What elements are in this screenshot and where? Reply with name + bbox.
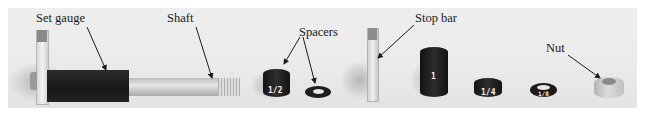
arrow-spacers-half (284, 37, 300, 64)
arrow-spacers-washer (303, 37, 315, 83)
arrow-shaft (196, 27, 212, 78)
callout-arrows (0, 0, 649, 115)
arrow-nut (568, 55, 600, 78)
arrow-stop-bar (378, 25, 414, 58)
arrow-set-gauge (87, 27, 106, 70)
